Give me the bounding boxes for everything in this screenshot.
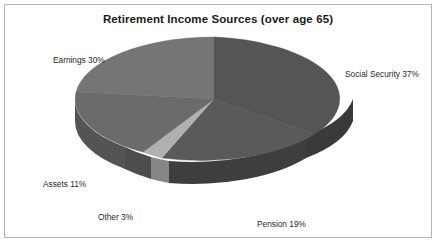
pie-label-social-security: Social Security 37% <box>345 69 419 79</box>
pie-label-assets: Assets 11% <box>43 179 86 189</box>
pie-label-other: Other 3% <box>98 212 133 222</box>
chart-frame: Retirement Income Sources (over age 65) … <box>4 4 432 238</box>
pie-chart-graphic <box>5 5 433 239</box>
pie-slice-earnings[interactable] <box>76 37 214 99</box>
pie-label-earnings: Earnings 30% <box>53 55 105 65</box>
pie-side-other <box>151 157 169 183</box>
pie-label-pension: Pension 19% <box>257 219 306 229</box>
